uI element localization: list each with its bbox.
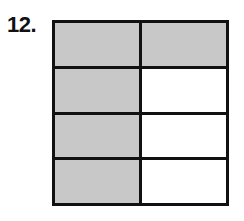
grid-cell-shaded: [55, 160, 139, 203]
grid-cell-shaded: [55, 115, 139, 158]
grid-cell-shaded: [55, 23, 139, 66]
grid-cell-unshaded: [142, 69, 226, 112]
problem-number: 12.: [7, 12, 36, 38]
fraction-grid: [52, 20, 229, 206]
grid-cell-unshaded: [142, 160, 226, 203]
grid-cell-unshaded: [142, 115, 226, 158]
grid-cell-shaded: [142, 23, 226, 66]
grid-cell-shaded: [55, 69, 139, 112]
